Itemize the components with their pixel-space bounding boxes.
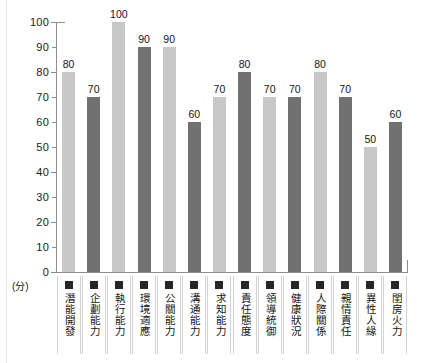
category-label-cell-13: 異性人緣 [358,276,382,354]
bar-7: 70 [213,97,226,272]
bar-9: 70 [263,97,276,272]
square-marker-icon [241,281,249,289]
x-axis-right-cap [407,260,408,272]
category-label-text-12: 親情責任 [339,293,350,337]
category-label-text-6: 溝通能力 [189,293,200,337]
bar-14: 60 [389,122,402,272]
bar-value-label-6: 60 [188,108,200,120]
y-tick-label-0: 0 [43,266,49,278]
bar-value-label-8: 80 [239,58,251,70]
category-label-text-10: 健康狀況 [289,293,300,337]
y-tick-label-80: 80 [36,66,49,78]
category-label-cell-3: 執行能力 [107,276,131,354]
bar-value-label-14: 60 [390,108,402,120]
square-marker-icon [291,281,299,289]
category-label-cell-6: 溝通能力 [182,276,206,354]
y-tick-20 [51,222,56,223]
bar-value-label-4: 90 [138,33,150,45]
category-label-text-13: 異性人緣 [365,293,376,337]
category-label-cell-11: 人際關係 [308,276,332,354]
square-marker-icon [341,281,349,289]
bar-6: 60 [188,122,201,272]
y-tick-label-60: 60 [36,116,49,128]
square-marker-icon [165,281,173,289]
y-tick-40 [51,172,56,173]
category-labels-row: 潛能開發企劃能力執行能力環境適應公關能力溝通能力求知能力責任態度領導統御健康狀況… [56,276,408,356]
chart-page: 1009080706050403020100 80701009090607080… [0,0,435,363]
category-label-cell-12: 親情責任 [333,276,357,354]
y-tick-label-100: 100 [30,16,49,28]
bar-10: 70 [288,97,301,272]
y-tick-60 [52,122,56,123]
bar-13: 50 [364,147,377,272]
square-marker-icon [90,281,98,289]
bar-value-label-1: 80 [63,58,75,70]
bar-value-label-11: 80 [314,58,326,70]
bar-value-label-5: 90 [163,33,175,45]
category-label-cell-5: 公關能力 [157,276,181,354]
y-tick-70 [52,97,56,98]
bar-5: 90 [163,47,176,272]
category-label-text-5: 公關能力 [163,293,174,337]
bar-8: 80 [238,72,251,272]
square-marker-icon [215,281,223,289]
y-axis-top-cap [56,22,65,23]
y-tick-label-30: 30 [36,191,49,203]
square-marker-icon [391,281,399,289]
bar-11: 80 [314,72,327,272]
square-marker-icon [366,281,374,289]
category-label-cell-7: 求知能力 [207,276,231,354]
bar-4: 90 [138,47,151,272]
y-tick-50 [52,147,56,148]
y-axis-line [56,22,57,272]
square-marker-icon [140,281,148,289]
y-tick-100 [51,22,56,23]
category-label-text-14: 閨房火力 [390,293,401,337]
square-marker-icon [266,281,274,289]
category-label-text-1: 潛能開發 [63,293,74,337]
y-axis-unit-label: (分) [12,278,29,293]
category-label-cell-8: 責任態度 [233,276,257,354]
bar-value-label-10: 70 [289,83,301,95]
category-label-cell-2: 企劃能力 [82,276,106,354]
y-tick-80 [51,72,56,73]
category-label-text-7: 求知能力 [214,293,225,337]
y-tick-label-50: 50 [36,141,49,153]
category-label-text-2: 企劃能力 [88,293,99,337]
page-left-edge [6,0,7,363]
y-tick-90 [52,47,56,48]
category-label-cell-10: 健康狀況 [283,276,307,354]
x-axis-line [56,272,408,273]
square-marker-icon [115,281,123,289]
bar-value-label-3: 100 [110,8,128,20]
bar-value-label-13: 50 [364,133,376,145]
bar-1: 80 [62,72,75,272]
category-label-text-3: 執行能力 [113,293,124,337]
square-marker-icon [190,281,198,289]
y-tick-label-90: 90 [36,41,49,53]
category-label-text-4: 環境適應 [138,293,149,337]
category-label-text-9: 領導統御 [264,293,275,337]
y-tick-label-40: 40 [36,166,49,178]
y-tick-10 [52,247,56,248]
bar-2: 70 [87,97,100,272]
category-label-text-11: 人際關係 [314,293,325,337]
plot-area: 1009080706050403020100 80701009090607080… [56,22,408,272]
category-label-cell-14: 閨房火力 [383,276,407,354]
y-tick-30 [52,197,56,198]
bar-value-label-9: 70 [264,83,276,95]
y-tick-label-10: 10 [36,241,49,253]
category-label-text-8: 責任態度 [239,293,250,337]
bar-3: 100 [112,22,125,272]
square-marker-icon [316,281,324,289]
category-label-cell-1: 潛能開發 [57,276,81,354]
y-tick-label-70: 70 [36,91,49,103]
bar-value-label-7: 70 [214,83,226,95]
bar-value-label-2: 70 [88,83,100,95]
y-tick-0 [51,272,56,273]
category-label-cell-9: 領導統御 [258,276,282,354]
square-marker-icon [65,281,73,289]
bar-12: 70 [339,97,352,272]
y-tick-label-20: 20 [36,216,49,228]
bar-value-label-12: 70 [339,83,351,95]
